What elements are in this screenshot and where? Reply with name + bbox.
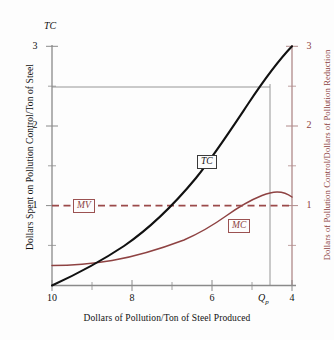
curve-label-mv: MV [73,199,95,213]
y-axis-left-title: Dollars Spent on Pollution Control/Ton o… [25,48,35,266]
tc-axis-note: TC [44,20,56,31]
x-axis-tick-label-8: 8 [124,292,140,303]
chart-plot-area [0,0,334,340]
y-axis-right-title: Dollars of Pollution Control/Dollars of … [322,5,332,305]
curve-tc [52,46,292,285]
x-axis-title: Dollars of Pollution/Ton of Steel Produc… [0,313,334,323]
y-axis-left-tick-label-1: 1 [28,199,42,210]
economics-chart-figure: Dollars Spent on Pollution Control/Ton o… [0,0,334,340]
y-axis-right-tick-label-2: 2 [302,119,316,130]
y-axis-left-tick-label-3: 3 [28,40,42,51]
qp-annotation: Qp [258,292,269,306]
x-axis-tick-label-10: 10 [44,292,60,303]
curve-label-mc: MC [228,219,250,233]
curve-label-tc: TC [197,155,217,169]
qp-annotation-subscript: p [265,298,269,306]
x-axis-tick-label-4: 4 [284,292,300,303]
y-axis-left-tick-label-2: 2 [28,119,42,130]
y-axis-right-tick-label-1: 1 [302,199,316,210]
x-axis-tick-label-6: 6 [204,292,220,303]
y-axis-right-tick-label-3: 3 [302,40,316,51]
